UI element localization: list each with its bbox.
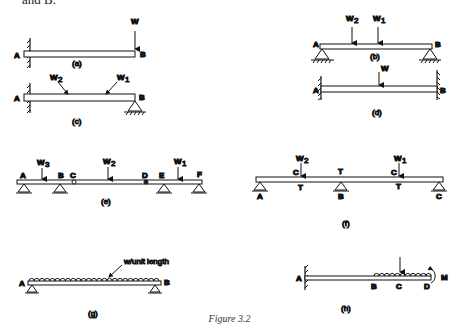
label-b-W1: W	[373, 14, 381, 23]
label-b-B: B	[435, 40, 441, 49]
diagram-e	[16, 167, 207, 193]
label-e-B: B	[58, 171, 64, 180]
label-b: (b)	[370, 52, 380, 61]
label-d: (d)	[372, 108, 382, 117]
label-h: (h)	[341, 304, 351, 313]
label-e-D: D	[142, 171, 148, 180]
label-g-A: A	[19, 279, 25, 288]
label-e-E: E	[159, 171, 165, 180]
label-f-T-top: T	[338, 167, 343, 176]
label-d-W: W	[381, 64, 389, 73]
label-h-M: M	[441, 273, 448, 282]
label-f: (f)	[342, 219, 350, 228]
label-h-D: D	[424, 282, 430, 291]
diagram-c	[24, 82, 146, 115]
diagram-g	[25, 265, 162, 293]
label-a-A: A	[14, 51, 20, 60]
label-c: (c)	[72, 117, 82, 126]
label-f-A: A	[257, 192, 263, 201]
diagram-d	[318, 70, 440, 100]
label-e-F: F	[197, 170, 202, 179]
label-f-C: C	[436, 192, 442, 201]
label-c-A: A	[14, 94, 20, 103]
svg-text:2: 2	[354, 16, 359, 25]
label-c-B: B	[139, 93, 145, 102]
label-b-A: A	[313, 40, 319, 49]
svg-text:1: 1	[182, 159, 187, 168]
svg-text:3: 3	[45, 160, 50, 169]
label-g-B: B	[164, 278, 170, 287]
label-b-W2: W	[346, 14, 354, 23]
label-f-W1: W	[394, 154, 402, 163]
label-e-W3: W	[37, 158, 45, 167]
svg-text:2: 2	[58, 75, 63, 84]
label-d-A: A	[313, 86, 319, 95]
svg-text:1: 1	[125, 75, 130, 84]
label-e-W2: W	[103, 157, 111, 166]
label-h-B: B	[371, 282, 377, 291]
label-f-C-top-1: C	[293, 168, 299, 177]
label-c-W2: W	[50, 73, 58, 82]
svg-text:2: 2	[111, 159, 116, 168]
svg-text:1: 1	[402, 156, 407, 165]
label-f-W2: W	[296, 154, 304, 163]
label-a: (a)	[72, 59, 82, 68]
label-d-B: B	[440, 86, 446, 95]
label-f-C-top-2: C	[391, 168, 397, 177]
svg-text:2: 2	[304, 156, 309, 165]
label-a-W: W	[131, 17, 139, 26]
label-h-A: A	[296, 274, 302, 283]
label-e: (e)	[101, 197, 111, 206]
svg-text:1: 1	[381, 16, 386, 25]
label-e-C: C	[70, 171, 76, 180]
label-e-W1: W	[174, 157, 182, 166]
label-a-B: B	[140, 50, 146, 59]
label-c-W1: W	[117, 73, 125, 82]
label-e-A: A	[20, 171, 26, 180]
label-h-C: C	[396, 282, 402, 291]
label-f-T-bottom-2: T	[396, 182, 401, 191]
beam-figure: A B W (a) A B W 2 W 1 (b) A B W 2 W 1 (c…	[0, 0, 459, 336]
label-g-udl: w/unit length	[123, 257, 169, 266]
diagram-f	[252, 163, 447, 191]
figure-caption: Figure 3.2	[0, 313, 459, 324]
label-f-B: B	[338, 192, 344, 201]
label-f-T-bottom-1: T	[298, 183, 303, 192]
